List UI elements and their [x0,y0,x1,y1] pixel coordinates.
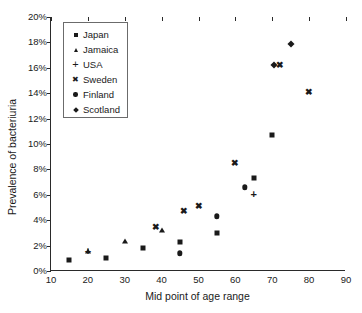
x-axis-tick-mark [125,17,126,21]
x-axis-tick-mark [235,17,236,21]
circle-marker-icon [69,92,82,96]
y-axis-tick-label: 8% [33,165,47,175]
x-axis-tick-mark [88,17,89,21]
x-axis-tick-mark [199,17,200,21]
chart-legend: JapanJamaica+USA✖SwedenFinlandScotland [63,22,128,118]
data-point: + [251,188,257,199]
legend-item-label: Scotland [83,104,120,115]
data-point [177,251,182,256]
x-axis-tick-mark [346,17,347,21]
y-axis-tick-label: 16% [28,63,47,73]
x-axis-tick-label: 70 [267,275,278,285]
y-axis-tick-label: 12% [28,114,47,124]
y-axis-tick-mark [47,119,51,120]
y-axis-tick-label: 20% [28,12,47,22]
cross-marker-icon: ✖ [69,76,82,84]
data-point: ✖ [231,159,239,168]
legend-item-finland: Finland [69,87,127,102]
triangle-marker-icon [69,48,82,52]
x-axis-tick-label: 60 [230,275,241,285]
data-point [242,184,247,189]
y-axis-tick-mark [47,271,51,272]
x-axis-label: Mid point of age range [50,290,345,302]
y-axis-tick-mark [47,144,51,145]
scatter-chart: Prevalence of bacteriuria Mid point of a… [0,0,362,313]
y-axis-tick-label: 14% [28,88,47,98]
y-axis-tick-mark [47,246,51,247]
data-point: ✖ [152,222,160,231]
y-axis-tick-mark [47,195,51,196]
legend-item-usa: +USA [69,57,127,72]
data-point [178,239,183,244]
y-axis-tick-label: 18% [28,38,47,48]
y-axis-tick-mark [47,220,51,221]
x-axis-tick-label: 20 [83,275,94,285]
y-axis-tick-mark [47,68,51,69]
legend-item-japan: Japan [69,27,127,42]
data-point: ✖ [305,87,313,96]
legend-item-label: Sweden [83,74,117,85]
legend-item-label: Jamaica [83,44,118,55]
data-point: ✖ [195,202,203,211]
y-axis-tick-mark [47,93,51,94]
plus-marker-icon: + [69,59,82,70]
y-axis-label: Prevalence of bacteriuria [6,42,18,272]
diamond-marker-icon [69,108,82,112]
data-point [287,40,294,47]
x-axis-tick-label: 50 [193,275,204,285]
legend-item-jamaica: Jamaica [69,42,127,57]
x-axis-tick-mark [51,17,52,21]
legend-item-sweden: ✖Sweden [69,72,127,87]
data-point: + [85,245,91,256]
y-axis-tick-label: 2% [33,241,47,251]
data-point [104,256,109,261]
x-axis-tick-label: 90 [341,275,352,285]
x-axis-tick-label: 40 [156,275,167,285]
y-axis-tick-label: 6% [33,190,47,200]
y-axis-tick-mark [47,169,51,170]
y-axis-tick-label: 4% [33,215,47,225]
y-axis-tick-label: 10% [28,139,47,149]
data-point [251,176,256,181]
x-axis-tick-label: 30 [119,275,130,285]
legend-item-label: Japan [83,29,109,40]
legend-item-label: USA [83,59,103,70]
x-axis-tick-mark [162,17,163,21]
data-point [270,133,275,138]
x-axis-tick-label: 80 [304,275,315,285]
data-point [214,230,219,235]
data-point [214,214,219,219]
legend-item-label: Finland [83,89,114,100]
x-axis-tick-mark [309,17,310,21]
square-marker-icon [69,33,82,37]
legend-item-scotland: Scotland [69,102,127,117]
data-point [67,258,72,263]
data-point: ✖ [180,207,188,216]
y-axis-tick-mark [47,42,51,43]
data-point [122,238,128,243]
x-axis-tick-label: 10 [46,275,57,285]
data-point [141,246,146,251]
x-axis-tick-mark [272,17,273,21]
